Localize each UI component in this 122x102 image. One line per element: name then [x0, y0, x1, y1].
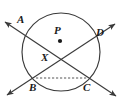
- circle-p: [22, 13, 100, 91]
- point-label-c: C: [83, 82, 90, 93]
- geometry-diagram: A B C D P X: [0, 0, 122, 102]
- point-label-a: A: [17, 14, 24, 25]
- point-label-d: D: [96, 27, 104, 38]
- center-point-dot: [58, 39, 62, 43]
- point-label-b: B: [29, 82, 36, 93]
- center-label-p: P: [54, 25, 61, 36]
- intersection-label-x: X: [41, 52, 48, 63]
